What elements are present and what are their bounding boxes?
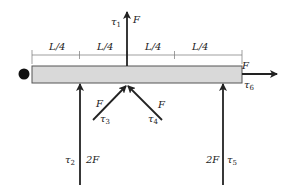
force-label-tau2: 2F <box>85 154 100 165</box>
force-arrow-tau4 <box>128 86 162 120</box>
force-label-tau1: F <box>132 14 141 25</box>
dimension-label-3: L/4 <box>144 41 161 52</box>
dimension-label-1: L/4 <box>48 41 65 52</box>
torque-label-tau6: τ6 <box>244 79 255 92</box>
dimension-label-4: L/4 <box>191 41 208 52</box>
torque-label-tau3: τ3 <box>100 113 110 126</box>
force-label-tau5: 2F <box>205 154 220 165</box>
torque-label-tau2: τ2 <box>65 154 75 167</box>
dimension-label-2: L/4 <box>96 41 113 52</box>
force-label-tau6: F <box>241 60 250 71</box>
beam-torque-diagram: L/4 L/4 L/4 L/4 τ1 F τ2 2F F τ3 F τ4 2F … <box>0 0 286 195</box>
force-label-tau4: F <box>157 99 166 110</box>
torque-label-tau1: τ1 <box>111 16 121 29</box>
dimension-line <box>32 50 242 64</box>
force-label-tau3: F <box>95 98 104 109</box>
pivot-dot <box>19 69 30 80</box>
torque-label-tau5: τ5 <box>227 154 237 167</box>
beam <box>32 66 242 83</box>
